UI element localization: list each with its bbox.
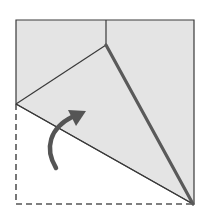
origami-fold-diagram (0, 0, 208, 220)
paper-shaded-region (16, 20, 194, 204)
